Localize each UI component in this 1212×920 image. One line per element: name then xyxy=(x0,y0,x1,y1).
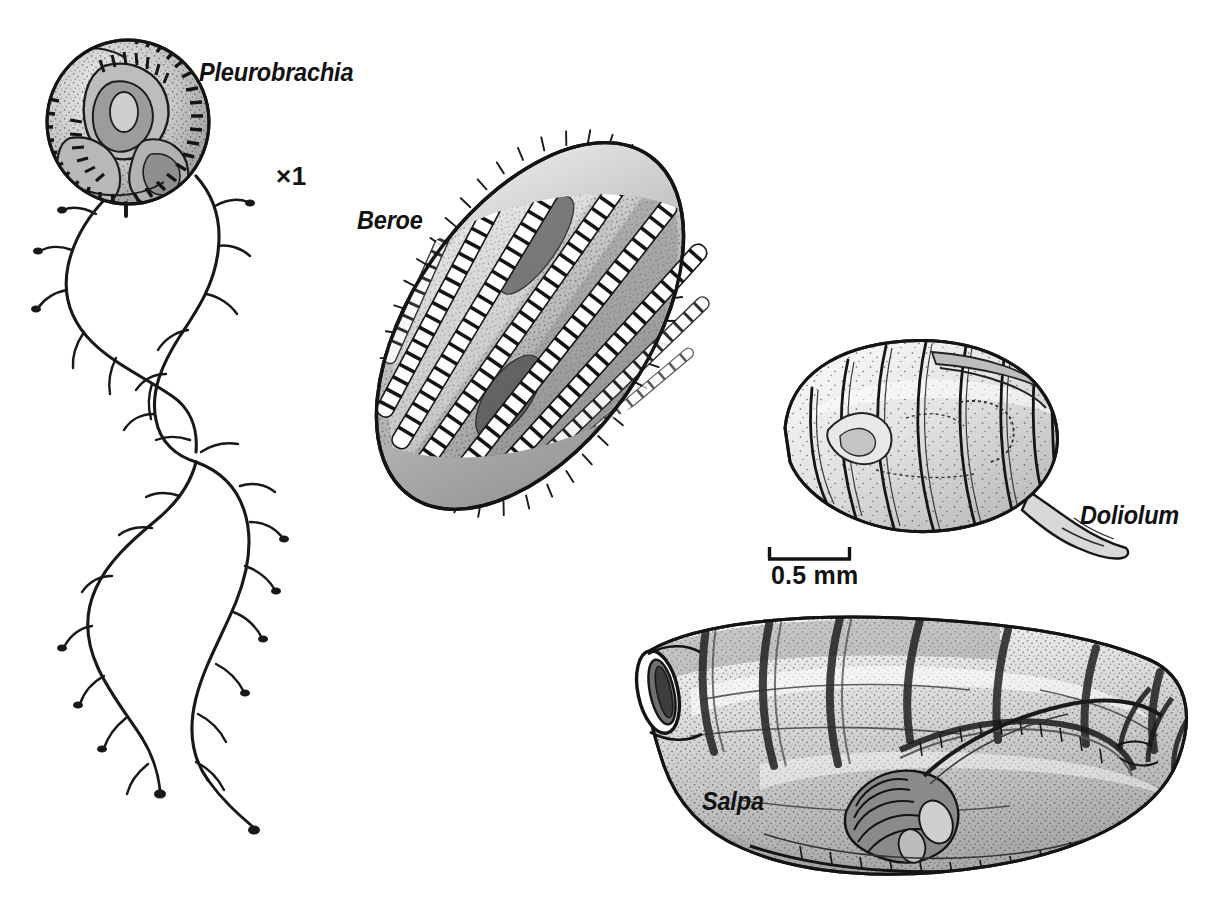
label-salpa: Salpa xyxy=(702,789,764,814)
label-pleurobrachia: Pleurobrachia xyxy=(199,60,353,85)
scale-bar-label: 0.5 mm xyxy=(771,563,858,588)
label-beroe: Beroe xyxy=(357,208,423,233)
label-doliolum: Doliolum xyxy=(1080,503,1179,528)
illustration-plate xyxy=(0,0,1212,920)
magnification-marker: ×1 xyxy=(276,163,307,189)
